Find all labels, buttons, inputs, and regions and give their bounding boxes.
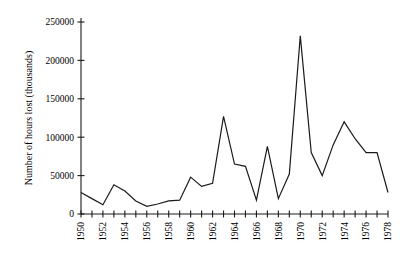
x-axis-tick-label: 1954: [120, 222, 130, 241]
x-axis-tick-label: 1974: [340, 222, 350, 241]
y-axis-title: Number of hours lost (thousands): [23, 51, 35, 185]
y-axis-tick-label: 250000: [46, 17, 75, 27]
x-axis-tick-label: 1956: [142, 222, 152, 241]
x-axis-tick-label: 1958: [164, 222, 174, 241]
x-axis-tick-label: 1952: [98, 222, 108, 241]
y-axis-tick-label: 50000: [50, 171, 74, 181]
data-series-line: [81, 36, 388, 207]
x-axis-tick-label: 1978: [383, 222, 393, 241]
y-axis-tick-label: 100000: [46, 133, 75, 143]
x-axis-tick-label: 1972: [318, 222, 328, 241]
x-axis-tick-label: 1970: [296, 222, 306, 241]
x-axis-tick-label: 1960: [186, 222, 196, 241]
x-axis-tick-label: 1964: [230, 222, 240, 241]
y-axis-tick-label: 150000: [46, 94, 75, 104]
y-axis-tick-label: 0: [69, 209, 74, 219]
x-axis-tick-label: 1962: [208, 222, 218, 241]
chart-container: 0500001000001500002000002500001950195219…: [0, 0, 412, 261]
line-chart-plot: 0500001000001500002000002500001950195219…: [0, 0, 412, 261]
x-axis-tick-label: 1950: [76, 222, 86, 241]
x-axis-tick-label: 1966: [252, 222, 262, 241]
x-axis-tick-label: 1976: [361, 222, 371, 241]
y-axis-tick-label: 200000: [46, 56, 75, 66]
x-axis-tick-label: 1968: [274, 222, 284, 241]
